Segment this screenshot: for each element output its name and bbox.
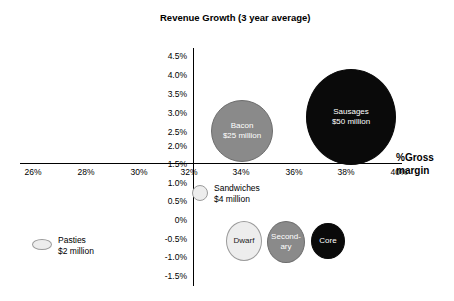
y-tick-label: 0% xyxy=(141,215,187,225)
bubble-bacon[interactable]: Bacon $25 million xyxy=(211,100,273,162)
y-tick-label: 2.5% xyxy=(141,127,187,137)
y-tick-label: 3.5% xyxy=(141,89,187,99)
y-axis-ticks: 4.5% 4.0% 3.5% 3.0% 2.5% 2.0% 1.5% 1.0% … xyxy=(141,0,187,301)
y-tick-label: -1.0% xyxy=(141,252,187,262)
x-tick-label: 40% xyxy=(379,167,419,177)
bubble-label-sandwiches: Sandwiches $4 million xyxy=(214,183,260,205)
x-tick-label: 26% xyxy=(13,167,53,177)
y-tick-label: 4.0% xyxy=(141,70,187,80)
legend-bubble-dwarf[interactable]: Dwarf xyxy=(226,221,262,261)
legend-label-secondary: Second- ary xyxy=(271,232,301,252)
x-axis-title-line1: %Gross xyxy=(396,152,434,163)
bubble-sandwiches[interactable] xyxy=(192,185,208,201)
x-tick-label: 32% xyxy=(169,167,209,177)
legend-bubble-secondary[interactable]: Second- ary xyxy=(267,221,305,263)
y-tick-label: 1.0% xyxy=(141,178,187,188)
y-tick-label: 3.0% xyxy=(141,108,187,118)
bubble-sausages[interactable]: Sausages $50 million xyxy=(306,69,396,165)
x-tick-label: 36% xyxy=(274,167,314,177)
bubble-chart: Revenue Growth (3 year average) %Grossma… xyxy=(0,0,454,301)
x-tick-label: 34% xyxy=(221,167,261,177)
legend-label-dwarf: Dwarf xyxy=(234,236,255,246)
y-tick-label: 0.5% xyxy=(141,196,187,206)
x-tick-label: 30% xyxy=(119,167,159,177)
y-tick-label: 4.5% xyxy=(141,51,187,61)
bubble-pasties[interactable] xyxy=(32,239,52,250)
legend-label-core: Core xyxy=(319,236,336,246)
y-tick-label: -0.5% xyxy=(141,234,187,244)
x-tick-label: 38% xyxy=(326,167,366,177)
y-tick-label: -1.5% xyxy=(141,271,187,281)
bubble-label-bacon: Bacon $25 million xyxy=(223,121,261,141)
bubble-label-sausages: Sausages $50 million xyxy=(332,107,370,127)
x-tick-label: 28% xyxy=(66,167,106,177)
y-tick-label: 2.0% xyxy=(141,141,187,151)
legend-bubble-core[interactable]: Core xyxy=(311,223,345,259)
bubble-label-pasties: Pasties $2 million xyxy=(58,235,94,257)
